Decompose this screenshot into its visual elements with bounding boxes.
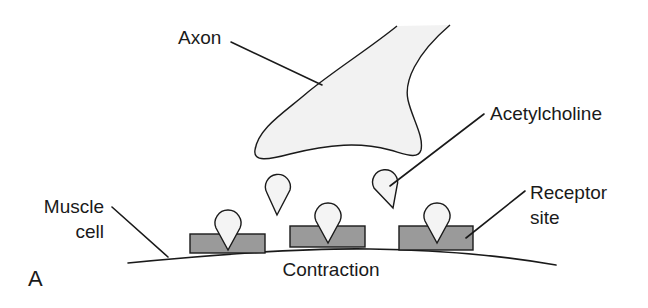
axon-terminal: [255, 25, 450, 159]
neuromuscular-junction-diagram: Axon Acetylcholine Muscle cell Receptor …: [0, 0, 648, 308]
muscle-cell-label-line1: Muscle: [44, 196, 104, 217]
axon-label: Axon: [178, 27, 221, 48]
receptor-site-leader-line: [466, 191, 525, 238]
receptor-site-label-line2: site: [530, 207, 560, 228]
free-acetylcholine-droplet-1: [265, 174, 290, 215]
receptor-site-label-line1: Receptor: [530, 182, 608, 203]
acetylcholine-label: Acetylcholine: [490, 103, 602, 124]
free-acetylcholine-droplet-2: [373, 170, 398, 208]
contraction-label: Contraction: [282, 259, 379, 280]
muscle-cell-label-line2: cell: [75, 221, 104, 242]
panel-letter: A: [28, 266, 43, 291]
muscle-cell-leader-line: [112, 207, 168, 257]
axon-leader-line: [231, 42, 322, 85]
